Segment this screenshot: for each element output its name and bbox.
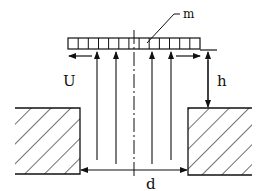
wall-left <box>15 108 80 174</box>
height-label: h <box>217 72 227 90</box>
mass-label: m <box>183 7 195 21</box>
velocity-label: U <box>63 72 76 90</box>
plate <box>68 38 217 50</box>
gap-label: d <box>146 175 156 191</box>
height-dimension: h <box>208 52 227 107</box>
wall-right <box>188 108 252 175</box>
diagram-canvas: m U h d <box>0 0 265 191</box>
